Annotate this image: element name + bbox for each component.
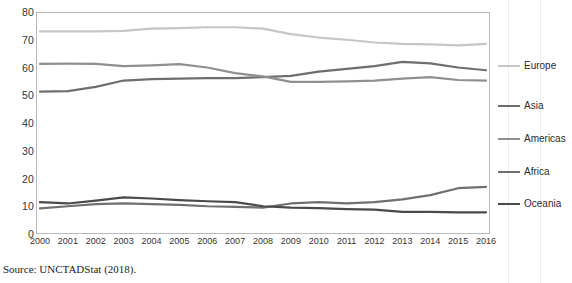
legend-label: Africa xyxy=(524,166,550,177)
x-axis-tick-label: 2006 xyxy=(197,236,217,246)
x-axis-tick-label: 2001 xyxy=(58,236,78,246)
y-axis-tick-label: 10 xyxy=(4,200,34,212)
legend-swatch-americas xyxy=(498,138,520,140)
x-axis-tick-label: 2004 xyxy=(141,236,161,246)
x-axis-tick-label: 2010 xyxy=(309,236,329,246)
x-axis-tick-label: 2002 xyxy=(86,236,106,246)
x-axis-tick-label: 2014 xyxy=(420,236,440,246)
x-axis-tick-label: 2008 xyxy=(253,236,273,246)
legend-label: Asia xyxy=(524,100,543,111)
x-axis-tick-label: 2009 xyxy=(281,236,301,246)
x-axis-tick-label: 2003 xyxy=(114,236,134,246)
y-axis-tick-label: 20 xyxy=(4,173,34,185)
y-axis-tick-label: 50 xyxy=(4,89,34,101)
x-axis-tick-label: 2016 xyxy=(476,236,496,246)
y-axis: 01020304050607080 xyxy=(0,12,34,234)
legend-label: Europe xyxy=(524,60,556,71)
y-axis-tick-label: 80 xyxy=(4,6,34,18)
series-line-americas xyxy=(40,64,486,82)
legend-item-africa[interactable]: Africa xyxy=(498,166,550,177)
plot-lines xyxy=(36,12,490,234)
y-axis-tick-label: 30 xyxy=(4,145,34,157)
legend-item-asia[interactable]: Asia xyxy=(498,100,543,111)
x-axis-tick-label: 2011 xyxy=(337,236,356,246)
source-caption: Source: UNCTADStat (2018). xyxy=(3,263,136,275)
x-axis-tick-label: 2007 xyxy=(225,236,245,246)
legend-swatch-europe xyxy=(498,65,520,67)
x-axis-tick-label: 2000 xyxy=(30,236,50,246)
x-axis-tick-label: 2005 xyxy=(169,236,189,246)
legend-item-oceania[interactable]: Oceania xyxy=(498,198,561,209)
x-axis-tick-label: 2012 xyxy=(364,236,384,246)
legend-item-europe[interactable]: Europe xyxy=(498,60,556,71)
chart-legend: EuropeAsiaAmericasAfricaOceania xyxy=(498,12,572,234)
y-axis-tick-label: 70 xyxy=(4,34,34,46)
legend-item-americas[interactable]: Americas xyxy=(498,133,566,144)
y-axis-tick-label: 40 xyxy=(4,117,34,129)
x-axis: 2000200120022003200420052006200720082009… xyxy=(36,236,490,252)
x-axis-tick-label: 2015 xyxy=(448,236,468,246)
y-axis-tick-label: 60 xyxy=(4,62,34,74)
legend-label: Oceania xyxy=(524,198,561,209)
legend-swatch-oceania xyxy=(498,203,520,205)
line-chart-figure: 01020304050607080 2000200120022003200420… xyxy=(0,0,572,283)
legend-swatch-africa xyxy=(498,171,520,173)
legend-swatch-asia xyxy=(498,105,520,107)
x-axis-tick-label: 2013 xyxy=(392,236,412,246)
series-line-europe xyxy=(40,27,486,45)
legend-label: Americas xyxy=(524,133,566,144)
